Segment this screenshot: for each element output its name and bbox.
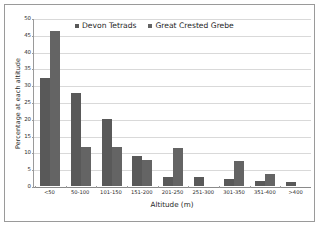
y-axis-tick-mark	[32, 120, 34, 121]
x-axis-tick-label: <50	[34, 190, 65, 195]
x-axis-tick-label: 301-350	[219, 190, 250, 195]
bar	[265, 174, 275, 186]
legend-swatch-icon	[148, 24, 152, 28]
bar	[286, 182, 296, 186]
x-axis-tick-label: 50-100	[65, 190, 96, 195]
y-axis-tick-label: 20	[24, 117, 31, 122]
bar	[142, 160, 152, 186]
y-axis-tick-label: 30	[24, 83, 31, 88]
y-axis-tick-mark	[32, 170, 34, 171]
legend-swatch-icon	[75, 24, 79, 28]
y-axis-tick-label: 0	[28, 184, 31, 189]
legend-item: Great Crested Grebe	[148, 21, 233, 30]
bar	[40, 78, 50, 186]
legend-item: Devon Tetrads	[75, 21, 136, 30]
x-axis-tick-labels: <5050-100101-150151-200201-250251-300301…	[34, 190, 311, 195]
y-axis-tick-label: 15	[24, 134, 31, 139]
y-axis-tick-label: 5	[28, 167, 31, 172]
x-axis-tick-label: >400	[280, 190, 311, 195]
bar	[132, 156, 142, 186]
bar-group	[250, 19, 281, 186]
bar	[71, 93, 81, 186]
bar-groups	[35, 19, 311, 186]
plot-area: 05101520253035404550	[33, 19, 311, 188]
bar	[102, 119, 112, 186]
x-axis-tick-mark	[96, 186, 97, 188]
bar	[163, 177, 173, 186]
bar-group	[280, 19, 311, 186]
x-axis-tick-mark	[66, 186, 67, 188]
x-axis-tick-mark	[280, 186, 281, 188]
legend: Devon TetradsGreat Crested Grebe	[75, 21, 234, 30]
legend-label: Devon Tetrads	[82, 21, 136, 30]
bar-group	[127, 19, 158, 186]
x-axis-tick-mark	[188, 186, 189, 188]
bar	[50, 31, 60, 186]
y-axis-tick-mark	[32, 103, 34, 104]
y-axis-tick-label: 35	[24, 67, 31, 72]
bar-group	[96, 19, 127, 186]
y-axis-tick-mark	[32, 69, 34, 70]
x-axis-tick-label: 151-200	[126, 190, 157, 195]
bar	[173, 148, 183, 186]
y-axis-tick-mark	[32, 86, 34, 87]
bar-group	[188, 19, 219, 186]
bar-group	[35, 19, 66, 186]
bar-group	[158, 19, 189, 186]
x-axis-title: Altitude (m)	[33, 200, 311, 209]
x-axis-tick-mark	[250, 186, 251, 188]
x-axis-tick-label: 201-250	[157, 190, 188, 195]
bar	[112, 147, 122, 186]
x-axis-tick-label: 351-400	[249, 190, 280, 195]
bar-group	[219, 19, 250, 186]
x-axis-tick-mark	[158, 186, 159, 188]
legend-label: Great Crested Grebe	[155, 21, 233, 30]
y-axis-title: Percentage at each altitude	[12, 19, 24, 188]
bar	[224, 179, 234, 186]
bar-group	[66, 19, 97, 186]
y-axis-tick-label: 10	[24, 151, 31, 156]
bar	[194, 177, 204, 186]
x-axis-tick-mark	[127, 186, 128, 188]
x-axis-tick-label: 101-150	[96, 190, 127, 195]
y-axis-tick-label: 40	[24, 50, 31, 55]
chart-figure: Percentage at each altitude 051015202530…	[0, 0, 321, 228]
y-axis-tick-mark	[32, 36, 34, 37]
y-axis-tick-label: 45	[24, 33, 31, 38]
y-axis-tick-mark	[32, 187, 34, 188]
x-axis-tick-mark	[219, 186, 220, 188]
y-axis-tick-mark	[32, 53, 34, 54]
bar	[255, 181, 265, 186]
y-axis-tick-mark	[32, 153, 34, 154]
y-axis-tick-label: 25	[24, 100, 31, 105]
bar	[234, 161, 244, 186]
y-axis-tick-mark	[32, 19, 34, 20]
bar	[81, 147, 91, 186]
x-axis-tick-label: 251-300	[188, 190, 219, 195]
y-axis-tick-mark	[32, 137, 34, 138]
y-axis-tick-label: 50	[24, 16, 31, 21]
x-axis-tick-mark	[35, 186, 36, 188]
